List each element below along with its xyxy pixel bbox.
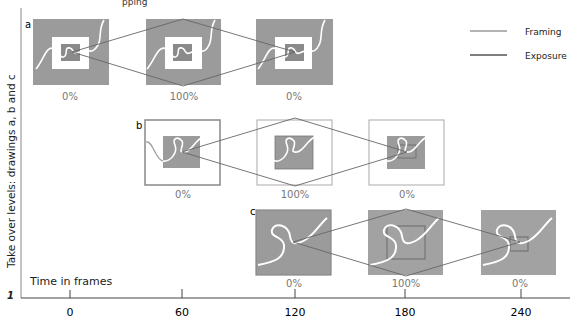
legend: Framing Exposure — [470, 27, 567, 61]
row-a-pct-1: 0% — [62, 91, 78, 102]
row-c-pct-1: 0% — [286, 278, 302, 289]
tick-label-180: 180 — [395, 306, 416, 319]
row-b-frame-2 — [257, 120, 332, 185]
tick-label-120: 120 — [285, 306, 306, 319]
row-b: b 0% 100% 0% — [136, 118, 444, 200]
row-c-letter: c — [250, 206, 256, 217]
tick-label-60: 60 — [175, 306, 189, 319]
x-ticks: 0 60 120 180 240 — [67, 289, 532, 319]
legend-exposure-label: Exposure — [525, 51, 567, 61]
legend-framing-label: Framing — [525, 27, 561, 37]
row-c-pct-3: 0% — [512, 278, 528, 289]
y-axis-label: Take over levels: drawings a, b and c — [5, 74, 17, 269]
row-a: a 0% 100% 0% — [25, 19, 333, 102]
corner-mark: 1 — [7, 290, 14, 301]
x-axis-label: Time in frames — [29, 275, 113, 288]
caption-fragment: pping — [122, 0, 147, 7]
row-c: c 0% 100% 0% — [250, 206, 556, 289]
row-a-frame-2 — [146, 19, 221, 85]
row-a-pct-3: 0% — [286, 91, 302, 102]
row-c-frame-2 — [368, 210, 443, 275]
row-b-pct-1: 0% — [175, 189, 191, 200]
row-b-pct-2: 100% — [281, 189, 310, 200]
row-c-pct-2: 100% — [392, 278, 421, 289]
row-a-letter: a — [25, 19, 31, 30]
tick-label-0: 0 — [67, 306, 74, 319]
row-b-pct-3: 0% — [399, 189, 415, 200]
takeover-diagram: pping 1 Take over levels: drawings a, b … — [0, 0, 576, 333]
row-a-pct-2: 100% — [170, 91, 199, 102]
row-b-letter: b — [136, 120, 142, 131]
tick-label-240: 240 — [511, 306, 532, 319]
